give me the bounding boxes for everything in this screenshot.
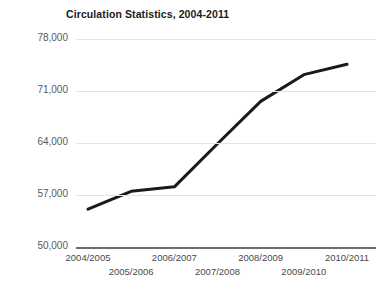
x-tick-label: 2008/2009 xyxy=(238,252,283,263)
y-tick-label: 57,000 xyxy=(16,188,68,199)
x-axis: 2004/20052005/20062006/20072007/20082008… xyxy=(0,252,392,292)
y-tick-label: 78,000 xyxy=(16,32,68,43)
x-tick-label: 2010/2011 xyxy=(325,252,369,263)
x-tick-label: 2004/2005 xyxy=(66,252,111,263)
x-tick-label: 2005/2006 xyxy=(109,266,154,277)
gridline xyxy=(76,195,376,196)
gridline xyxy=(76,91,376,92)
x-tick-label: 2007/2008 xyxy=(195,266,240,277)
line-chart: Circulation Statistics, 2004-2011 78,000… xyxy=(0,0,392,304)
x-tick-label: 2006/2007 xyxy=(152,252,197,263)
y-tick-label: 64,000 xyxy=(16,136,68,147)
x-tick-label: 2009/2010 xyxy=(281,266,326,277)
gridline xyxy=(76,39,376,40)
x-axis-line xyxy=(76,247,376,249)
y-tick-label: 71,000 xyxy=(16,84,68,95)
y-tick-label: 50,000 xyxy=(16,240,68,251)
gridline xyxy=(76,143,376,144)
